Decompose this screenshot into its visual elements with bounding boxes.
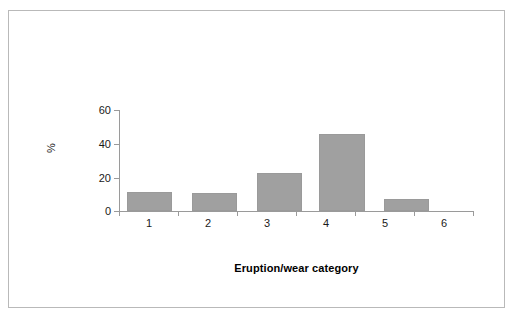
bar-category-4 (319, 134, 365, 211)
x-tick-mark-1 (178, 211, 179, 216)
x-tick-mark-0 (119, 211, 120, 216)
x-tick-mark-2 (237, 211, 238, 216)
x-tick-label-2: 2 (188, 217, 228, 230)
bar-category-1 (127, 192, 172, 211)
x-tick-mark-6 (473, 211, 474, 216)
y-tick-label-40: 40 (85, 139, 111, 150)
y-tick-label-60-wrap: 60 (81, 105, 111, 116)
y-tick-label-60: 60 (85, 105, 111, 116)
y-tick-label-40-wrap: 40 (81, 139, 111, 150)
x-tick-mark-3 (296, 211, 297, 216)
bar-category-5 (384, 199, 429, 211)
x-tick-label-4: 4 (306, 217, 346, 230)
y-tick-label-20-wrap: 20 (81, 173, 111, 184)
x-tick-label-1: 1 (129, 217, 169, 230)
bar-category-2 (192, 193, 237, 212)
y-axis-line (119, 110, 120, 211)
y-axis-title: % (45, 133, 57, 163)
bar-category-3 (257, 173, 302, 211)
x-tick-mark-5 (414, 211, 415, 216)
chart-figure-frame: % 60 40 20 0 1 2 3 4 5 6 Eruption/wear c… (8, 10, 505, 308)
y-tick-label-0: 0 (85, 206, 111, 217)
y-tick-label-0-wrap: 0 (81, 206, 111, 217)
x-tick-mark-4 (355, 211, 356, 216)
y-tick-label-20: 20 (85, 173, 111, 184)
x-tick-label-6: 6 (424, 217, 464, 230)
x-axis-title: Eruption/wear category (119, 262, 474, 274)
x-tick-label-5: 5 (365, 217, 405, 230)
x-tick-label-3: 3 (247, 217, 287, 230)
